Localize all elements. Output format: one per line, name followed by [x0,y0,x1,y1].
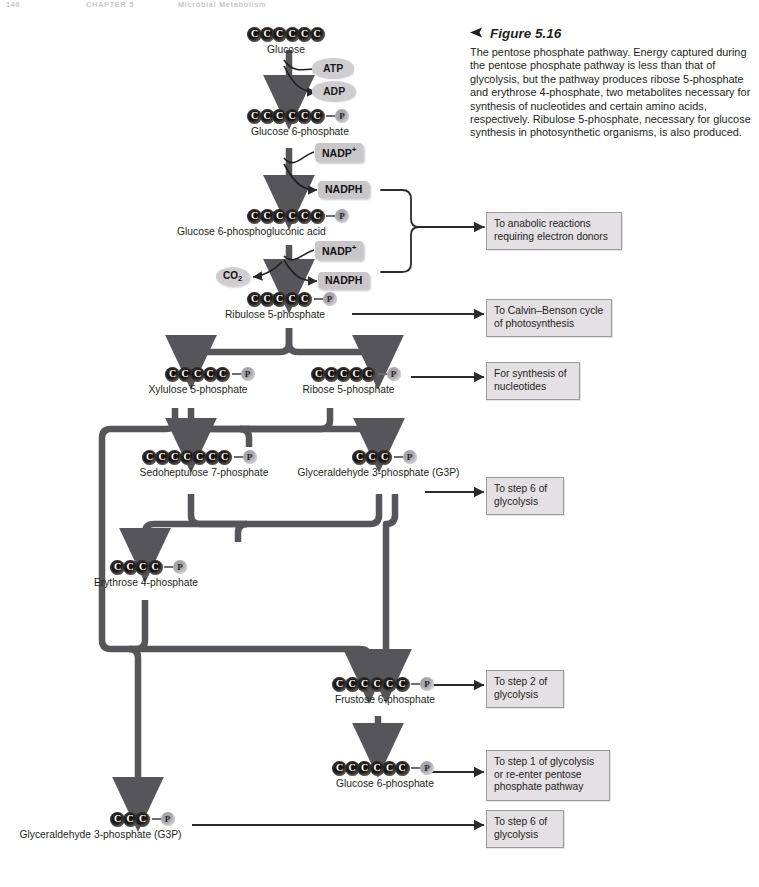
phosphate-group: P [420,761,434,775]
carbon-chain: CCCP [352,449,461,465]
curve-nadp2-in [284,250,314,260]
molecule-label: Glucose 6-phosphogluconic acid [177,226,289,237]
note-step6-bottom: To step 6 of glycolysis [486,810,564,848]
molecule-sedoheptulose-7-phosphate: CCCCCCCP Sedoheptulose 7-phosphate [142,449,274,478]
carbon-atom: C [310,27,325,42]
molecule-label: Ribose 5-phosphate [296,384,401,395]
molecule-erythrose-4-phosphate: CCCCP Erythrose 4-phosphate [110,559,206,588]
join-sedo-down [191,494,247,524]
phosphate-group: P [161,812,175,826]
molecule-g3p-middle: CCCP Glyceraldehyde 3-phosphate (G3P) [352,449,461,478]
curve-atp-in [284,60,313,70]
molecule-fructose-6-phosphate: CCCCCCP Frustose 6-phosphate [332,676,441,705]
molecule-label: Erythrose 4-phosphate [86,577,206,588]
phosphate-bond [411,767,420,769]
carbon-chain: CCCCCC [247,26,328,42]
phosphate-bond [232,373,241,375]
molecule-label: Glyceraldehyde 3-phosphate (G3P) [296,467,461,478]
phosphate-group: P [323,292,337,306]
carbon-atom: C [297,292,312,307]
cofactor-atp: ATP [314,60,352,77]
carbon-chain: CCCCCP [311,366,401,382]
phosphate-group: P [420,677,434,691]
carbon-chain: CCCCCCP [247,208,349,224]
left-triangle-icon [470,26,483,41]
cofactor-nadp-plus-1: NADP+ [315,143,363,162]
carbon-atom: C [310,209,325,224]
curve-co2-out [253,262,282,277]
phosphate-bond [394,456,403,458]
to-erythrose [145,524,247,551]
figure-caption: Figure 5.16 The pentose phosphate pathwa… [470,26,752,140]
carbon-atom: C [395,761,410,776]
branch-ribulose-left [191,328,289,361]
molecule-label: Glucose [244,44,328,55]
molecule-6-phosphogluconic-acid: CCCCCCP Glucose 6-phosphogluconic acid [247,208,349,237]
phosphate-bond [326,215,335,217]
carbon-atom: C [217,450,232,465]
carbon-chain: CCCCCCP [247,108,356,124]
branch-ribulose-right [289,328,378,361]
page-number: 146 [6,0,20,9]
molecule-ribulose-5-phosphate: CCCCCP Ribulose 5-phosphate [247,291,337,320]
molecule-glucose-6-phosphate-top: CCCCCCP Glucose 6-phosphate [247,108,356,137]
cofactor-nadph-2: NADPH [318,272,369,289]
note-step1-glycolysis: To step 1 of glycolysis or re-enter pent… [486,750,610,801]
phosphate-bond [378,373,387,375]
carbon-chain: CCCCCP [165,366,255,382]
note-anabolic-reactions: To anabolic reactions requiring electron… [486,212,622,250]
carbon-chain: CCCCP [110,559,206,575]
note-step6-middle: To step 6 of glycolysis [486,477,564,515]
chapter-label: CHAPTER 5 [86,0,134,9]
split-to-g3p [240,429,379,441]
molecule-label: Ribulose 5-phosphate [219,309,331,320]
note-step2-glycolysis: To step 2 of glycolysis [486,670,564,708]
figure-caption-title: Figure 5.16 [470,26,752,41]
split-to-sedo [191,429,249,441]
carbon-atom: C [395,677,410,692]
carbon-atom: C [215,367,230,382]
carbon-atom: C [377,450,392,465]
molecule-label: Glyceraldehyde 3-phosphate (G3P) [18,829,183,840]
molecule-label: Frustose 6-phosphate [329,694,441,705]
curve-adp-out [284,66,316,92]
molecule-label: Xylulose 5-phosphate [143,384,253,395]
phosphate-bond [411,683,420,685]
phosphate-group: P [387,367,401,381]
chapter-title: Microbial Metabolism [178,0,266,9]
note-nucleotide-synthesis: For synthesis of nucleotides [486,362,580,400]
product-co2: CO2 [216,267,249,286]
carbon-atom: C [361,367,376,382]
note-calvin-benson-cycle: To Calvin–Benson cycle of photosynthesis [486,299,612,337]
carbon-chain: CCCCCCP [332,676,441,692]
join-xylulose-down [191,408,240,429]
phosphate-bond [164,566,173,568]
phosphate-group: P [335,109,349,123]
phosphate-bond [314,298,323,300]
running-head: 146 CHAPTER 5 Microbial Metabolism [0,0,759,14]
cofactor-adp: ADP [314,83,354,100]
phosphate-group: P [335,209,349,223]
left-route-down-to-g3p [129,649,138,800]
phosphate-bond [326,115,335,117]
carbon-atom: C [148,560,163,575]
left-route-to-fructose [129,649,369,672]
figure-caption-body: The pentose phosphate pathway. Energy ca… [470,46,752,140]
join-ribose-down [240,408,330,429]
molecule-glucose: CCCCCC Glucose [247,26,328,55]
molecule-glucose-6-phosphate-bottom: CCCCCCP Glucose 6-phosphate [332,760,441,789]
cofactor-nadph-1: NADPH [318,181,369,198]
phosphate-group: P [173,560,187,574]
figure-canvas: 146 CHAPTER 5 Microbial Metabolism [0,0,759,887]
curve-nadp1-in [284,152,314,163]
xylulose-long-left-route [102,408,175,649]
molecule-xylulose-5-phosphate: CCCCCP Xylulose 5-phosphate [165,366,255,395]
phosphate-bond [152,818,161,820]
carbon-chain: CCCP [110,811,183,827]
phosphate-bond [234,456,243,458]
cofactor-nadp-plus-2: NADP+ [315,241,363,260]
carbon-chain: CCCCCCCP [142,449,274,465]
carbon-atom: C [135,812,150,827]
molecule-ribose-5-phosphate: CCCCCP Ribose 5-phosphate [311,366,401,395]
join-g3p-down [247,494,379,524]
